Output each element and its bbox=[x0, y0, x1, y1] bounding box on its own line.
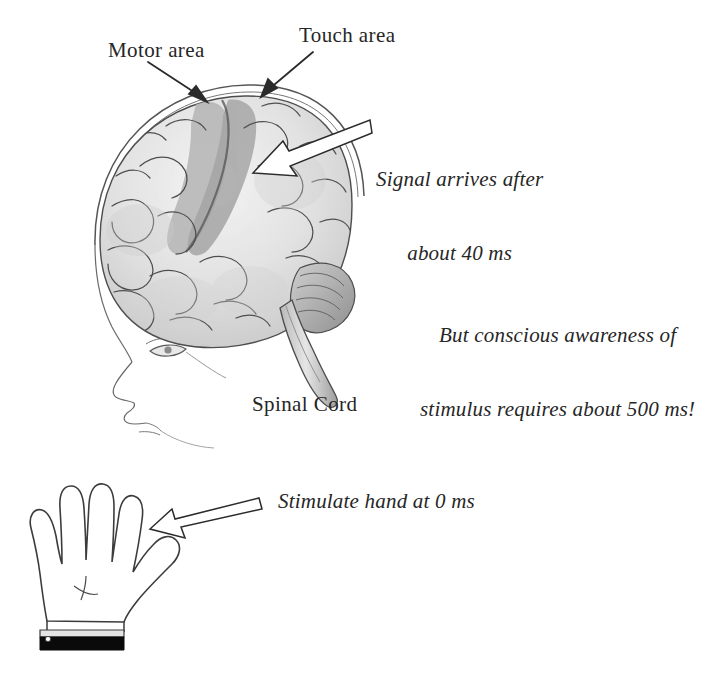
thin-arrow-icon-touch bbox=[261, 52, 313, 97]
figure-canvas: Motor area Touch area Signal arrives aft… bbox=[0, 0, 718, 676]
brain-drawing bbox=[100, 96, 355, 348]
open-hand-drawing bbox=[30, 484, 179, 632]
label-conscious-line1: But conscious awareness of bbox=[420, 323, 695, 348]
label-conscious-awareness: But conscious awareness of stimulus requ… bbox=[420, 273, 695, 471]
label-spinal-cord: Spinal Cord bbox=[252, 392, 357, 417]
label-motor-area: Motor area bbox=[108, 38, 205, 63]
label-stimulate-hand: Stimulate hand at 0 ms bbox=[278, 489, 475, 514]
black-wrist-band bbox=[40, 630, 124, 650]
label-signal-arrives-line1: Signal arrives after bbox=[376, 167, 543, 192]
label-signal-arrives-line2: about 40 ms bbox=[376, 241, 543, 266]
thin-arrow-icon-motor bbox=[148, 62, 207, 102]
label-touch-area: Touch area bbox=[299, 23, 395, 48]
label-conscious-line2: stimulus requires about 500 ms! bbox=[420, 397, 695, 422]
block-arrow-icon-stimulus bbox=[150, 498, 262, 538]
